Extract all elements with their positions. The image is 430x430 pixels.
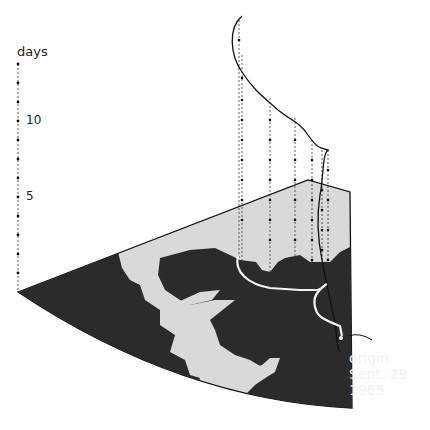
axis-title: days xyxy=(17,44,48,59)
origin-label-line1: origin xyxy=(349,350,408,366)
origin-annotation: origin Sept. 29 1965 xyxy=(349,350,408,398)
map-sector xyxy=(0,180,360,420)
origin-marker xyxy=(339,336,343,340)
axis-tick-5: 5 xyxy=(26,189,34,203)
axis-tick-10: 10 xyxy=(26,113,41,127)
origin-label-line2: Sept. 29 xyxy=(349,366,408,382)
time-axis xyxy=(17,63,20,292)
origin-label-line3: 1965 xyxy=(349,382,408,398)
